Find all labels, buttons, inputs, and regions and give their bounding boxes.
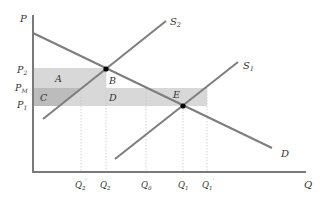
price-label-p2: P2 [16,64,27,76]
curve-label-s1: S1 [243,60,254,73]
region-label-c: C [40,92,48,103]
supply-curve-s1 [115,62,238,159]
qty-label-q1: Q1 [178,180,188,191]
region-label-b: B [108,75,116,86]
equilibrium-dot-s2 [103,66,108,71]
qty-label-q1-prime: Q1′ [202,177,214,191]
x-axis-label: Q [304,179,312,190]
y-axis-label: P [19,13,27,24]
curve-label-s2: S2 [170,16,181,29]
equilibrium-dot-s1 [180,103,185,108]
region-label-d: D [108,92,117,103]
supply-demand-diagram: P Q S2 S1 D P2 PM P1 Q2′ Q2 Q0 Q1 Q1′ A … [0,0,332,203]
curve-label-d: D [280,148,289,159]
qty-label-q2: Q2 [100,180,111,191]
price-label-pm: PM [14,82,28,94]
qty-label-q2-prime: Q2′ [75,177,87,191]
region-label-e: E [172,89,180,100]
price-label-p1: P1 [16,99,27,111]
qty-label-q0: Q0 [141,180,152,191]
region-label-a: A [54,73,62,84]
